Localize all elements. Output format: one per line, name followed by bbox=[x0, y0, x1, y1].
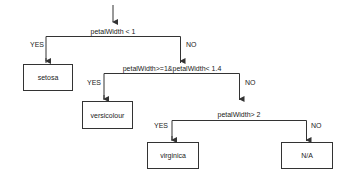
cond1-yes-label: YES bbox=[30, 41, 44, 49]
cond2-yes-label: YES bbox=[87, 79, 101, 87]
cond2-no-label: NO bbox=[245, 79, 256, 87]
leaf-virginica: virginica bbox=[147, 142, 199, 169]
leaf-versicolour: versicolour bbox=[82, 101, 133, 129]
cond3-yes-label: YES bbox=[154, 122, 168, 130]
cond2-label: petalWidth>=1&petalWidth< 1.4 bbox=[123, 65, 222, 73]
cond3-no-label: NO bbox=[311, 122, 322, 130]
leaf-na-label: N/A bbox=[301, 152, 313, 159]
cond1-branch bbox=[46, 37, 181, 64]
cond1-label: petalWidth < 1 bbox=[91, 28, 136, 36]
cond2-branch bbox=[104, 74, 240, 101]
leaf-virginica-label: virginica bbox=[160, 152, 186, 159]
leaf-setosa-label: setosa bbox=[38, 74, 59, 81]
cond3-label: petalWidth> 2 bbox=[218, 111, 261, 119]
leaf-setosa: setosa bbox=[23, 64, 73, 91]
cond3-branch bbox=[172, 121, 307, 142]
cond1-no-label: NO bbox=[186, 41, 197, 49]
leaf-versicolour-label: versicolour bbox=[91, 112, 125, 119]
leaf-na: N/A bbox=[281, 142, 333, 169]
